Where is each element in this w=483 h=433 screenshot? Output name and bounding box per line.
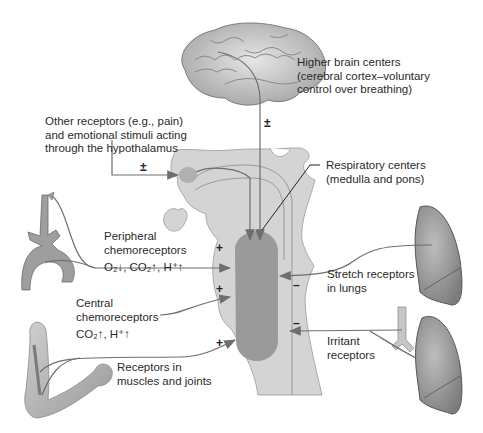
hypothalamus — [179, 167, 197, 183]
label-irritant: Irritant receptors — [327, 335, 375, 362]
central-stimuli: CO₂↑, H⁺↑ — [76, 328, 158, 342]
label-other-receptors: Other receptors (e.g., pain) and emotion… — [45, 115, 187, 156]
aorta-illustration — [22, 192, 75, 290]
sign-stretch: – — [293, 278, 300, 292]
sign-hypothalamus: ± — [140, 160, 147, 174]
lung-lower — [416, 316, 462, 414]
label-higher-brain: Higher brain centers (cerebral cortex–vo… — [297, 56, 430, 97]
sign-irritant: – — [293, 316, 300, 330]
label-peripheral: Peripheral chemoreceptors O₂↓, CO₂↑, H⁺↑ — [104, 230, 186, 275]
sign-central: + — [216, 282, 223, 296]
sign-higher-brain: ± — [264, 116, 271, 130]
label-respiratory-centers: Respiratory centers (medulla and pons) — [326, 159, 426, 186]
peripheral-stimuli: O₂↓, CO₂↑, H⁺↑ — [104, 261, 186, 275]
sign-muscles: + — [216, 336, 223, 350]
label-central: Central chemoreceptors CO₂↑, H⁺↑ — [76, 297, 158, 342]
label-muscles: Receptors in muscles and joints — [117, 361, 212, 388]
label-stretch: Stretch receptors in lungs — [327, 268, 415, 295]
sign-peripheral: + — [216, 241, 223, 255]
respiratory-centers — [235, 231, 278, 361]
lung-upper — [415, 206, 462, 305]
